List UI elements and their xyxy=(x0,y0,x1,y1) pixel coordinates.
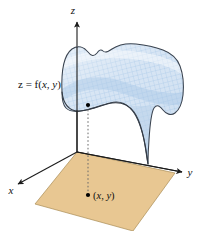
function-label: z = f(x, y) xyxy=(18,78,61,91)
surface-point-marker xyxy=(86,103,90,107)
domain-point-marker xyxy=(86,193,90,197)
point-label-close: ) xyxy=(111,190,115,202)
y-axis-label: y xyxy=(187,166,193,178)
z-axis-label: z xyxy=(70,4,76,16)
function-label-prefix: z = f( xyxy=(18,78,42,91)
diagram-canvas: z y x z = f(x, y) (x, y) xyxy=(0,0,204,231)
x-axis-label: x xyxy=(8,184,14,196)
surface-graph xyxy=(50,38,195,173)
surface-spike-shade xyxy=(130,106,158,164)
function-label-suffix: ) xyxy=(57,78,61,91)
domain-point-label: (x, y) xyxy=(93,190,115,202)
surface-function-diagram: z y x z = f(x, y) (x, y) xyxy=(0,0,204,231)
